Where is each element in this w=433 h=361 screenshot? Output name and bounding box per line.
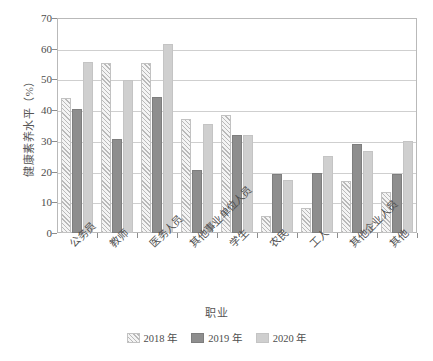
x-tick-mark: [137, 233, 138, 238]
y-tick-label: 40: [12, 104, 52, 116]
x-tick-mark: [377, 233, 378, 238]
x-tick-mark: [177, 233, 178, 238]
bar: [352, 144, 362, 233]
bar: [141, 63, 151, 233]
x-tick-mark: [297, 233, 298, 238]
x-tick-mark: [257, 233, 258, 238]
bar: [61, 98, 71, 233]
bar: [403, 141, 413, 233]
x-tick-mark: [217, 233, 218, 238]
legend-swatch: [191, 333, 204, 343]
y-tick-label: 50: [12, 73, 52, 85]
y-tick-label: 60: [12, 43, 52, 55]
x-tick-mark: [417, 233, 418, 238]
bar: [181, 119, 191, 233]
bar: [123, 80, 133, 233]
y-tick-mark: [52, 233, 57, 234]
legend-label: 2020 年: [273, 330, 307, 345]
bar-group: [297, 18, 337, 233]
bar-group: [137, 18, 177, 233]
legend-swatch: [127, 333, 140, 343]
x-tick-mark: [337, 233, 338, 238]
y-tick-label: 0: [12, 227, 52, 239]
bar: [112, 139, 122, 233]
bar: [72, 109, 82, 233]
bar: [261, 216, 271, 233]
legend-item: 2018 年: [127, 330, 178, 345]
bar: [341, 181, 351, 233]
bar: [272, 174, 282, 233]
legend-label: 2019 年: [208, 330, 242, 345]
bar: [152, 97, 162, 233]
bar-group: [257, 18, 297, 233]
bar: [83, 62, 93, 233]
bar: [283, 180, 293, 233]
x-axis-title: 职业: [0, 304, 433, 320]
bar-group: [377, 18, 417, 233]
y-tick-label: 20: [12, 166, 52, 178]
y-tick-label: 10: [12, 196, 52, 208]
legend-item: 2019 年: [191, 330, 242, 345]
bar-group: [177, 18, 217, 233]
bar: [101, 63, 111, 233]
legend-swatch: [256, 333, 269, 343]
legend-label: 2018 年: [144, 330, 178, 345]
bar: [323, 156, 333, 233]
chart-legend: 2018 年2019 年2020 年: [0, 330, 433, 345]
bar: [312, 173, 322, 233]
bar-group: [57, 18, 97, 233]
bar-group: [337, 18, 377, 233]
bar: [301, 208, 311, 233]
y-axis-title: 健康素养水平（%）: [20, 46, 36, 206]
legend-item: 2020 年: [256, 330, 307, 345]
bar-chart-figure: 健康素养水平（%） 010203040506070 公务员教师医务人员其他事业单…: [0, 0, 433, 361]
y-tick-label: 30: [12, 135, 52, 147]
bar-group: [97, 18, 137, 233]
bar: [163, 44, 173, 233]
y-tick-label: 70: [12, 12, 52, 24]
x-tick-mark: [97, 233, 98, 238]
